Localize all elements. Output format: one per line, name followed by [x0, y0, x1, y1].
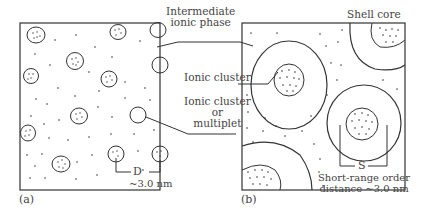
- panel-a-clusters: [21, 23, 169, 173]
- panel-a-tag: (a): [19, 193, 34, 206]
- panel-b-core-dots: [247, 27, 399, 186]
- intermediate-phase-label: Intermediate ionic phase: [166, 6, 235, 28]
- multiplet-label: Ionic cluster or multiplet: [184, 96, 251, 129]
- panel-b-tag: (b): [241, 193, 257, 206]
- panel-a-spacing-value: ~3.0 nm: [129, 178, 172, 189]
- ionic-cluster-label: Ionic cluster: [184, 72, 251, 83]
- panel-b-shells: [242, 23, 405, 190]
- panel-b-spacing-symbol: S: [358, 160, 366, 171]
- panel-b-cores: [242, 23, 405, 190]
- label-line: Short-range order: [318, 172, 410, 183]
- shell-core-label: Shell core: [347, 9, 401, 20]
- shell-right: [327, 85, 401, 161]
- label-line: ionic phase: [166, 17, 235, 28]
- panel-a-cluster-dots: [24, 28, 161, 168]
- label-line: distance ~3.0 nm: [318, 183, 410, 194]
- panel-b-frame: [242, 23, 405, 190]
- shell-left: [251, 41, 327, 129]
- label-line: multiplet: [184, 118, 251, 129]
- shell-top-right: [350, 23, 405, 70]
- panel-b-spacing-value: Short-range order distance ~3.0 nm: [318, 172, 410, 194]
- panel-a-spacing-symbol: D: [133, 166, 142, 177]
